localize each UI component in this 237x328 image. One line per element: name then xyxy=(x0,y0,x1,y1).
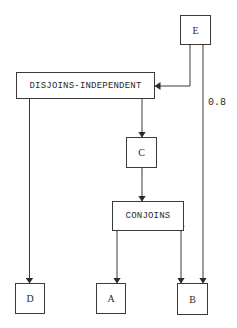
node-d: D xyxy=(15,283,45,314)
node-conjoins: CONJOINS xyxy=(112,201,184,231)
edge-weight-label: 0.8 xyxy=(208,97,226,108)
node-c: C xyxy=(126,137,157,168)
node-conjoins-label: CONJOINS xyxy=(126,211,171,221)
node-a-label: A xyxy=(107,293,114,304)
node-b-label: B xyxy=(189,294,196,305)
edge-e-disjoins xyxy=(155,45,190,86)
node-d-label: D xyxy=(26,293,33,304)
node-e-label: E xyxy=(192,25,198,36)
node-disjoins-label: DISJOINS-INDEPENDENT xyxy=(29,81,141,91)
node-b: B xyxy=(177,283,208,315)
node-disjoins-independent: DISJOINS-INDEPENDENT xyxy=(16,72,155,99)
node-e: E xyxy=(180,15,211,45)
edges-layer xyxy=(0,0,237,328)
node-c-label: C xyxy=(138,147,145,158)
node-a: A xyxy=(96,283,126,314)
